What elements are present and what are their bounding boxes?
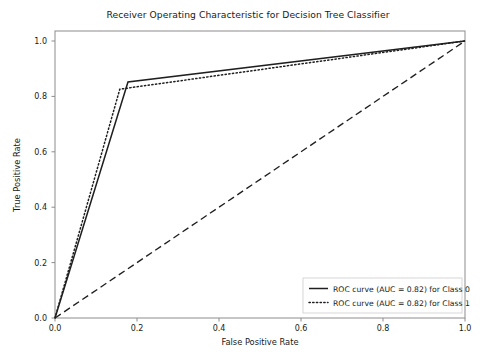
x-tick-label: 0.0 — [49, 324, 62, 333]
y-tick-label: 0.8 — [34, 92, 47, 101]
y-tick-label: 0.4 — [34, 203, 47, 212]
y-axis-title: True Positive Rate — [12, 138, 22, 213]
y-tick-label: 0.6 — [34, 148, 47, 157]
x-tick-label: 0.4 — [213, 324, 226, 333]
plot-background — [55, 31, 465, 318]
legend: ROC curve (AUC = 0.82) for Class 0 ROC c… — [303, 278, 470, 313]
x-tick-label: 0.6 — [295, 324, 308, 333]
legend-label-class-0: ROC curve (AUC = 0.82) for Class 0 — [333, 285, 470, 294]
y-tick-label: 0.2 — [34, 259, 47, 268]
y-tick-label: 0.0 — [34, 314, 47, 323]
y-tick-label: 1.0 — [34, 37, 47, 46]
x-axis-ticks: 0.0 0.2 0.4 0.6 0.8 1.0 — [49, 318, 472, 333]
x-axis-title: False Positive Rate — [221, 337, 298, 347]
chart-figure: Receiver Operating Characteristic for De… — [0, 0, 496, 352]
legend-label-class-1: ROC curve (AUC = 0.82) for Class 1 — [333, 299, 470, 308]
x-tick-label: 0.8 — [377, 324, 390, 333]
roc-plot: 0.0 0.2 0.4 0.6 0.8 1.0 0.0 0.2 0.4 0.6 … — [0, 0, 496, 352]
legend-box — [303, 278, 462, 313]
x-tick-label: 1.0 — [459, 324, 472, 333]
x-tick-label: 0.2 — [131, 324, 144, 333]
y-axis-ticks: 0.0 0.2 0.4 0.6 0.8 1.0 — [34, 37, 55, 323]
